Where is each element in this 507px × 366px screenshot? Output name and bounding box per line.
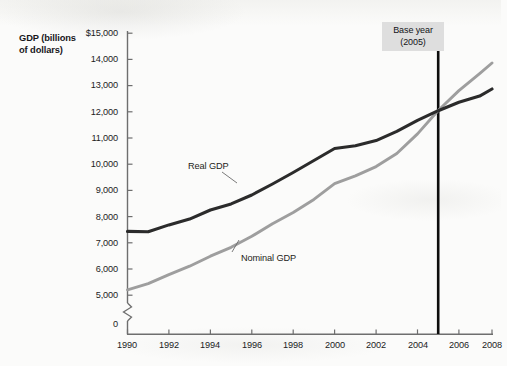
y-tick-label-11000: 11,000 bbox=[60, 133, 118, 143]
real-gdp-leader-line bbox=[222, 172, 237, 183]
x-tick-label-2000: 2000 bbox=[315, 340, 355, 350]
base-year-label-line1: Base year bbox=[393, 25, 433, 35]
base-year-label-line2: (2005) bbox=[400, 37, 425, 47]
y-tick-label-0: 0 bbox=[60, 319, 118, 329]
x-tick-label-1992: 1992 bbox=[149, 340, 189, 350]
x-tick-label-1996: 1996 bbox=[232, 340, 272, 350]
x-tick-label-1990: 1990 bbox=[107, 340, 147, 350]
y-tick-label-15000: $15,000 bbox=[60, 28, 118, 38]
base-year-annotation: Base year (2005) bbox=[382, 22, 444, 51]
y-tick-label-8000: 8,000 bbox=[60, 212, 118, 222]
y-tick-label-6000: 6,000 bbox=[60, 264, 118, 274]
y-tick-label-12000: 12,000 bbox=[60, 107, 118, 117]
y-tick-marks bbox=[128, 33, 133, 295]
x-tick-label-2002: 2002 bbox=[356, 340, 396, 350]
y-axis-title-line2: of dollars) bbox=[19, 45, 63, 55]
y-tick-label-13000: 13,000 bbox=[60, 80, 118, 90]
x-tick-label-1994: 1994 bbox=[190, 340, 230, 350]
y-axis-break-icon bbox=[124, 303, 132, 321]
nominal-gdp-label: Nominal GDP bbox=[241, 253, 296, 263]
x-tick-label-1998: 1998 bbox=[273, 340, 313, 350]
y-tick-label-9000: 9,000 bbox=[60, 185, 118, 195]
x-tick-label-2008: 2008 bbox=[472, 340, 507, 350]
y-tick-label-5000: 5,000 bbox=[60, 290, 118, 300]
x-tick-label-2004: 2004 bbox=[398, 340, 438, 350]
y-tick-label-10000: 10,000 bbox=[60, 159, 118, 169]
y-tick-label-7000: 7,000 bbox=[60, 238, 118, 248]
real-gdp-label: Real GDP bbox=[188, 161, 229, 171]
y-tick-label-14000: 14,000 bbox=[60, 54, 118, 64]
